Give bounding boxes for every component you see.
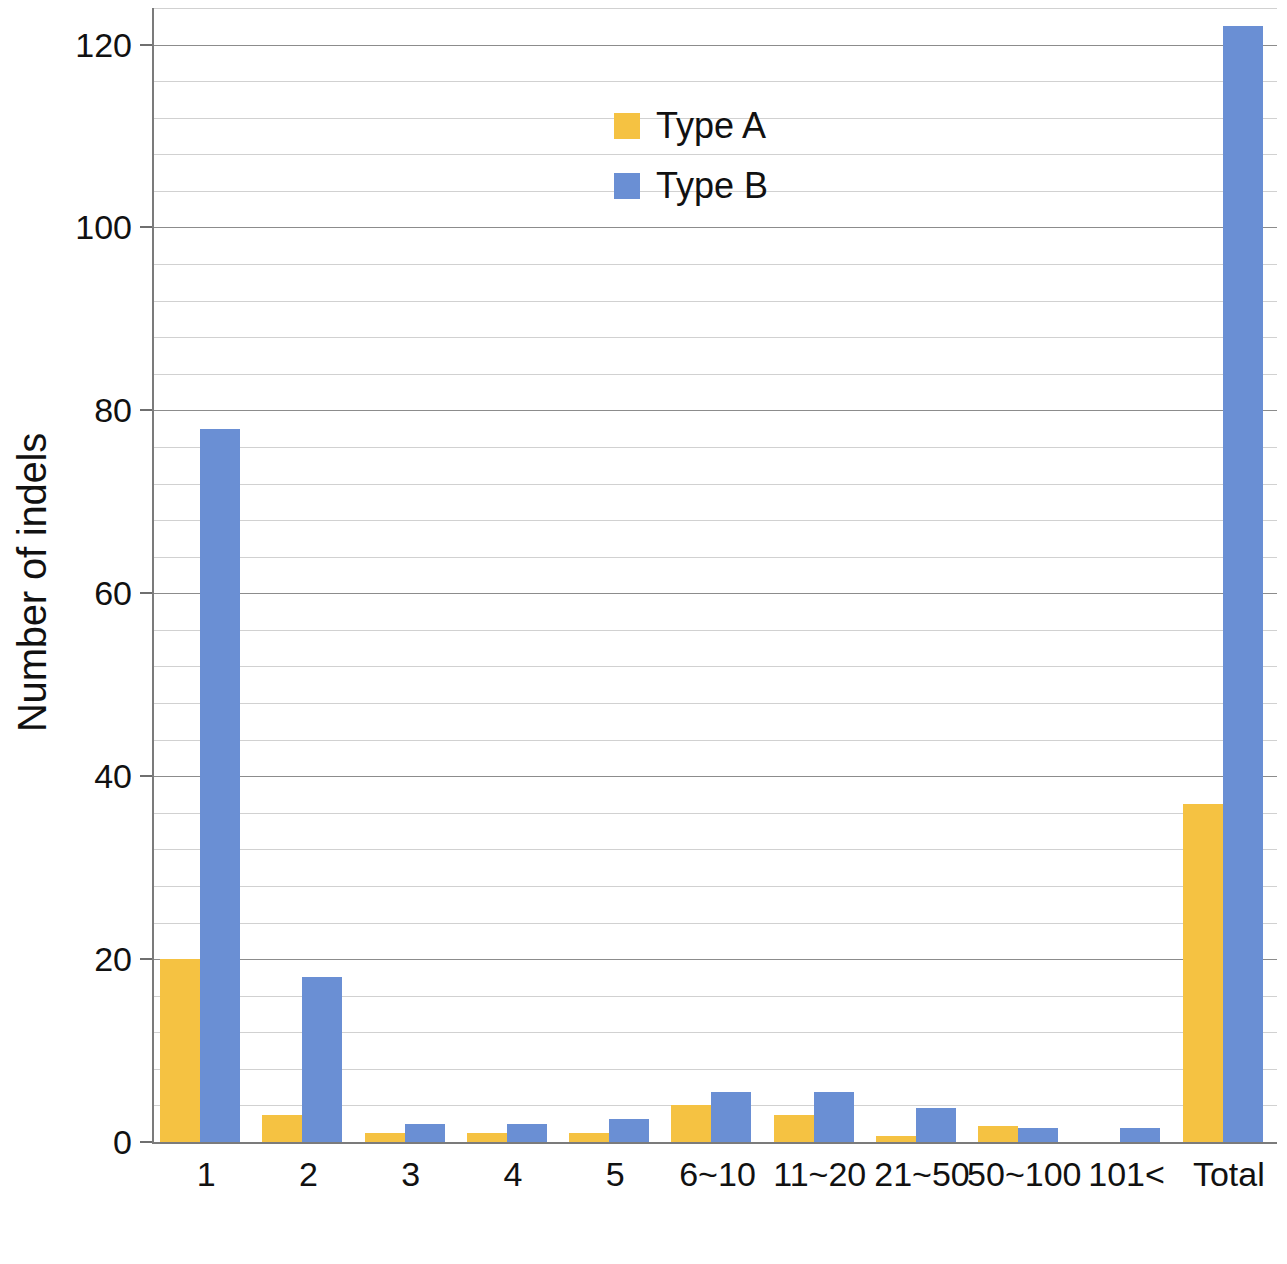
- bar-group: [459, 8, 561, 1142]
- bar-type-a[interactable]: [467, 1133, 507, 1142]
- bar-group: [357, 8, 459, 1142]
- legend-label: Type B: [656, 168, 768, 204]
- x-tick-label: 6~10: [679, 1155, 756, 1194]
- legend-swatch-icon: [614, 113, 640, 139]
- y-tick-mark: [140, 958, 152, 960]
- legend-swatch-icon: [614, 173, 640, 199]
- bar-type-b[interactable]: [200, 429, 240, 1142]
- bar-group: [254, 8, 356, 1142]
- y-axis-title: Number of indels: [10, 383, 55, 783]
- y-tick-mark: [140, 775, 152, 777]
- x-tick-label: 21~50: [874, 1155, 970, 1194]
- bar-type-b[interactable]: [507, 1124, 547, 1142]
- indel-length-bar-chart: Number of indels 020406080100120 123456~…: [0, 0, 1287, 1264]
- y-tick-mark: [140, 409, 152, 411]
- legend-label: Type A: [656, 108, 766, 144]
- x-tick-label: 3: [401, 1155, 420, 1194]
- bar-group: [766, 8, 868, 1142]
- legend-item[interactable]: Type B: [614, 166, 768, 206]
- y-tick-label: 100: [75, 208, 132, 247]
- bar-type-b[interactable]: [405, 1124, 445, 1142]
- x-tick-label: 4: [503, 1155, 522, 1194]
- y-tick-label: 0: [113, 1123, 132, 1162]
- x-tick-label: 5: [606, 1155, 625, 1194]
- y-tick-mark: [140, 1141, 152, 1143]
- y-tick-label: 80: [94, 391, 132, 430]
- bar-type-a[interactable]: [262, 1115, 302, 1142]
- x-tick-label: 1: [197, 1155, 216, 1194]
- x-tick-label: Total: [1193, 1155, 1265, 1194]
- y-tick-label: 40: [94, 757, 132, 796]
- y-tick-label: 60: [94, 574, 132, 613]
- legend-item[interactable]: Type A: [614, 106, 768, 146]
- bar-type-b[interactable]: [609, 1119, 649, 1142]
- y-tick-label: 120: [75, 25, 132, 64]
- x-tick-label: 101<: [1088, 1155, 1165, 1194]
- x-axis-tick-labels: 123456~1011~2021~5050~100101<Total: [152, 1155, 1277, 1205]
- bar-type-b[interactable]: [1120, 1128, 1160, 1142]
- bar-group: [1072, 8, 1174, 1142]
- bar-type-a[interactable]: [1183, 804, 1223, 1142]
- bar-type-b[interactable]: [1018, 1128, 1058, 1142]
- bar-group: [1175, 8, 1277, 1142]
- x-tick-label: 2: [299, 1155, 318, 1194]
- x-tick-label: 50~100: [967, 1155, 1081, 1194]
- bar-type-a[interactable]: [671, 1105, 711, 1142]
- bar-type-a[interactable]: [160, 959, 200, 1142]
- legend: Type AType B: [614, 106, 768, 226]
- y-tick-label: 20: [94, 940, 132, 979]
- bar-type-b[interactable]: [711, 1092, 751, 1142]
- bar-group: [152, 8, 254, 1142]
- x-tick-label: 11~20: [773, 1155, 866, 1194]
- bar-group: [970, 8, 1072, 1142]
- bar-type-a[interactable]: [876, 1136, 916, 1142]
- y-tick-mark: [140, 44, 152, 46]
- bar-type-b[interactable]: [916, 1108, 956, 1142]
- bar-type-b[interactable]: [814, 1092, 854, 1142]
- bar-type-a[interactable]: [774, 1115, 814, 1142]
- bar-type-a[interactable]: [365, 1133, 405, 1142]
- bar-type-a[interactable]: [978, 1126, 1018, 1142]
- bar-group: [868, 8, 970, 1142]
- bar-type-b[interactable]: [1223, 26, 1263, 1142]
- bar-type-b[interactable]: [302, 977, 342, 1142]
- y-tick-mark: [140, 592, 152, 594]
- y-tick-mark: [140, 226, 152, 228]
- bar-type-a[interactable]: [569, 1133, 609, 1142]
- x-axis-line: [152, 1142, 1277, 1144]
